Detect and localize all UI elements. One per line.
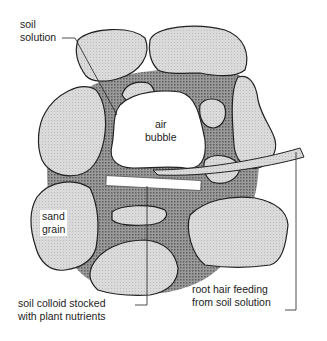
label-line: bubble <box>145 131 177 144</box>
label-soil-colloid: soil colloid stocked with plant nutrient… <box>18 297 106 323</box>
label-soil-solution: soil solution <box>20 18 56 44</box>
label-line: from soil solution <box>192 296 271 309</box>
label-line: air <box>145 118 177 131</box>
label-line: soil colloid stocked <box>18 297 106 310</box>
label-air-bubble: air bubble <box>145 118 177 144</box>
label-line: soil <box>20 18 56 31</box>
label-line: solution <box>20 31 56 44</box>
label-sand-grain: sand grain <box>40 210 67 236</box>
soil-diagram <box>0 0 327 341</box>
label-line: grain <box>42 223 65 236</box>
label-root-hair: root hair feeding from soil solution <box>192 283 271 309</box>
label-line: sand <box>42 210 65 223</box>
label-line: root hair feeding <box>192 283 271 296</box>
label-line: with plant nutrients <box>18 310 106 323</box>
